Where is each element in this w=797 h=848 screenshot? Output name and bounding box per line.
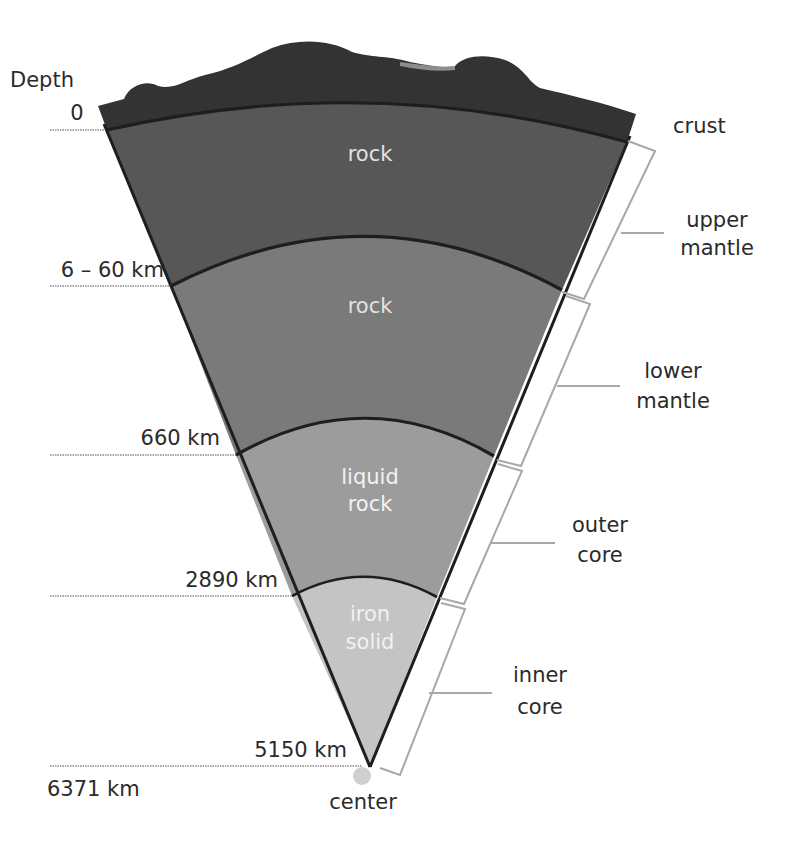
layer-name-outer-core-line1: outer [555,513,645,538]
depth-label-2890: 2890 km [140,568,278,593]
material-inner-core-line2: solid [330,630,410,655]
layer-name-lower-mantle-line1: lower [628,359,718,384]
center-dot [353,767,371,785]
material-outer-core-line1: liquid [330,465,410,490]
depth-label-6-60: 6 – 60 km [20,258,164,283]
material-lower-mantle: rock [330,294,410,319]
layer-name-upper-mantle-line2: mantle [672,236,762,261]
material-outer-core-line2: rock [330,492,410,517]
layer-name-upper-mantle-line1: upper [672,208,762,233]
layer-name-inner-core-line2: core [495,695,585,720]
material-inner-core-line1: iron [330,602,410,627]
depth-label-6371: 6371 km [47,777,140,802]
depth-label-660: 660 km [80,426,220,451]
depth-header: Depth [10,68,74,93]
depth-label-5150: 5150 km [210,738,347,763]
layer-name-inner-core-line1: inner [495,663,585,688]
layer-name-outer-core-line2: core [555,543,645,568]
material-upper-mantle: rock [330,142,410,167]
depth-label-0: 0 [62,101,92,126]
layer-name-lower-mantle-line2: mantle [628,389,718,414]
center-label: center [318,790,408,815]
layer-name-crust: crust [673,114,726,139]
